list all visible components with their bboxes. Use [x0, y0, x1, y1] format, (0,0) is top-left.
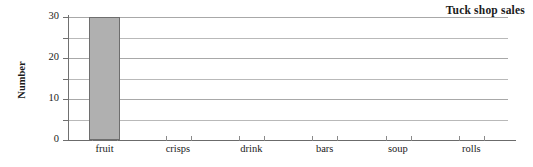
y-axis-tick-label: 30 — [0, 10, 59, 21]
y-axis-tick-label: 20 — [0, 51, 59, 62]
x-axis-tick — [337, 136, 338, 141]
y-axis-tick-label: 0 — [0, 133, 59, 144]
x-axis-category-label: soup — [361, 143, 434, 154]
plot-area — [68, 17, 508, 140]
bar — [89, 17, 121, 140]
y-axis-tick — [63, 17, 68, 18]
x-axis-category-label: fruit — [68, 143, 141, 154]
gridline — [68, 58, 508, 59]
y-axis-tick — [63, 120, 68, 121]
y-axis-tick — [63, 140, 68, 141]
x-axis-tick — [484, 136, 485, 141]
x-axis-category-label: crisps — [141, 143, 214, 154]
x-axis-category-label: drink — [215, 143, 288, 154]
gridline — [68, 120, 508, 121]
gridline — [68, 38, 508, 39]
x-axis-tick — [191, 136, 192, 141]
x-axis-tick — [264, 136, 265, 141]
y-axis-tick-label: 10 — [0, 92, 59, 103]
x-axis-category-label: bars — [288, 143, 361, 154]
x-axis-tick — [312, 136, 313, 141]
x-axis-line — [68, 140, 516, 141]
y-axis-tick — [63, 79, 68, 80]
x-axis-tick — [459, 136, 460, 141]
chart-title: Tuck shop sales — [446, 4, 525, 16]
gridline — [68, 99, 508, 100]
y-axis-line — [68, 15, 69, 141]
x-axis-tick — [166, 136, 167, 141]
x-axis-tick — [239, 136, 240, 141]
y-axis-tick — [63, 58, 68, 59]
y-axis-tick — [63, 99, 68, 100]
bar-chart: Tuck shop sales Number 0102030fruitcrisp… — [0, 0, 533, 167]
gridline — [68, 17, 508, 18]
y-axis-tick — [63, 38, 68, 39]
x-axis-category-label: rolls — [435, 143, 508, 154]
gridline — [68, 79, 508, 80]
x-axis-tick — [411, 136, 412, 141]
x-axis-tick — [386, 136, 387, 141]
